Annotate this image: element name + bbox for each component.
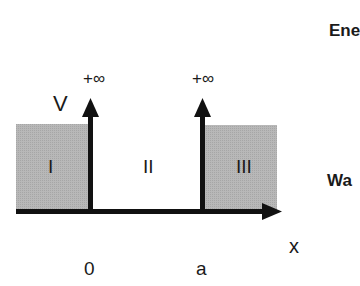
left-wall-arrowhead xyxy=(82,98,99,117)
x-axis xyxy=(16,209,270,214)
vertical-axis-label: V xyxy=(53,93,68,115)
side-text-wave: Wa xyxy=(327,172,352,189)
left-wall-infinity-label: +∞ xyxy=(83,70,105,87)
region-label-i: I xyxy=(48,157,53,176)
right-wall xyxy=(200,112,205,212)
potential-well-diagram xyxy=(0,0,360,286)
region-label-ii: II xyxy=(143,157,154,176)
side-text-energy: Ene xyxy=(329,22,360,39)
tick-label-a: a xyxy=(196,259,207,278)
horizontal-axis-label: x xyxy=(289,236,299,256)
region-label-iii: III xyxy=(236,157,252,176)
right-wall-arrowhead xyxy=(194,98,211,117)
left-wall xyxy=(88,112,93,212)
tick-label-zero: 0 xyxy=(84,259,95,278)
right-wall-infinity-label: +∞ xyxy=(192,70,214,87)
